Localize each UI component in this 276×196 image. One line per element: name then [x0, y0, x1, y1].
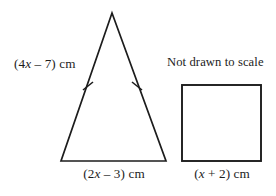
triangle-base-label-suffix: – 3) cm: [100, 166, 144, 181]
square-shape: [182, 85, 261, 161]
triangle-leg-label: (4x – 7) cm: [14, 57, 76, 71]
triangle-leg-label-suffix: – 7) cm: [31, 56, 75, 71]
not-drawn-to-scale-note: Not drawn to scale: [167, 55, 264, 69]
square-side-label: (x + 2) cm: [182, 167, 262, 181]
square-side-label-suffix: + 2) cm: [205, 166, 250, 181]
triangle-leg-label-prefix: (4: [14, 56, 25, 71]
triangle-base-label: (2x – 3) cm: [61, 167, 167, 181]
triangle-shape: [61, 13, 166, 161]
triangle-base-label-prefix: (2: [83, 166, 94, 181]
